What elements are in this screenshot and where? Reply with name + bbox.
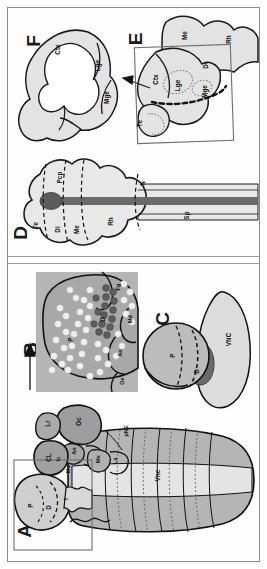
panel-a-label-d: D: [45, 505, 52, 510]
panel-a-label-p: P: [27, 503, 34, 507]
panel-a-label-pne: pNE: [123, 425, 129, 437]
panel-e-label-mge: Mge: [201, 85, 208, 98]
section-divider-upper: [8, 256, 259, 257]
panel-e-label-rh: Rh: [225, 35, 232, 44]
panel-d-label-di: Di: [54, 226, 61, 233]
panel-b-label-md: Md: [127, 315, 133, 323]
panel-b-label-oe: Oe: [119, 377, 125, 385]
panel-a-label-an: An: [71, 447, 77, 455]
panel-f-label-lge: Lge: [94, 60, 101, 72]
panel-d-label-sp: Sp: [183, 211, 190, 219]
panel-d-label-te: Te: [32, 222, 39, 229]
panel-c-label-p: P: [169, 353, 176, 357]
figure-root: F Ctx Lge Mge E: [0, 0, 267, 569]
panel-a-label-md: Md: [65, 465, 71, 473]
panel-d-label-pcp: Pcp: [56, 172, 63, 184]
panel-e: E Me Rh Ctx: [122, 10, 258, 160]
panel-b-label-fg: Fg: [115, 283, 121, 290]
panel-b-label-d: D: [99, 317, 106, 322]
panel-f: F Ctx Lge Mge: [14, 14, 124, 154]
panel-b-label-an: An: [117, 349, 123, 357]
panel-a-label-ic: Ic: [55, 457, 61, 462]
panel-f-label-mge: Mge: [103, 91, 110, 104]
panel-d: D Te Di Me Rh Sp N Pcp: [10, 152, 258, 252]
panel-d-label-rh: Rh: [107, 217, 114, 226]
panel-a-label-vnc: Vnc: [154, 470, 161, 482]
panel-d-label-n: N: [139, 181, 146, 186]
panel-a-label-la: La: [112, 458, 118, 465]
panel-a-label-t: T: [63, 497, 69, 501]
section-divider-lower: [8, 263, 259, 264]
panel-c-label-vnc: VNC: [225, 333, 232, 347]
panel-f-label-ctx: Ctx: [54, 44, 61, 54]
panel-a-label-lr: Lr: [44, 420, 51, 427]
panel-b-label-p: P: [67, 337, 74, 341]
panel-f-drawing: [14, 14, 124, 154]
panel-e-label-me: Me: [181, 31, 188, 40]
panel-e-label-di: Di: [202, 62, 209, 69]
panel-c-label-d: D: [193, 369, 200, 374]
panel-a-label-mx: Mx: [95, 455, 101, 463]
panel-d-label-me: Me: [73, 225, 80, 234]
panel-e-label-te: Te: [136, 120, 143, 127]
panel-e-label-lge: Lge: [174, 80, 181, 92]
panel-e-drawing: [122, 10, 258, 160]
panel-b: B: [14, 272, 138, 392]
panel-d-drawing: [10, 152, 258, 252]
panel-a: A: [12, 400, 258, 560]
panel-a-label-cl: CL: [45, 453, 52, 462]
panel-e-label-ctx: Ctx: [152, 74, 159, 84]
panel-a-label-oc: Oc: [75, 417, 82, 426]
